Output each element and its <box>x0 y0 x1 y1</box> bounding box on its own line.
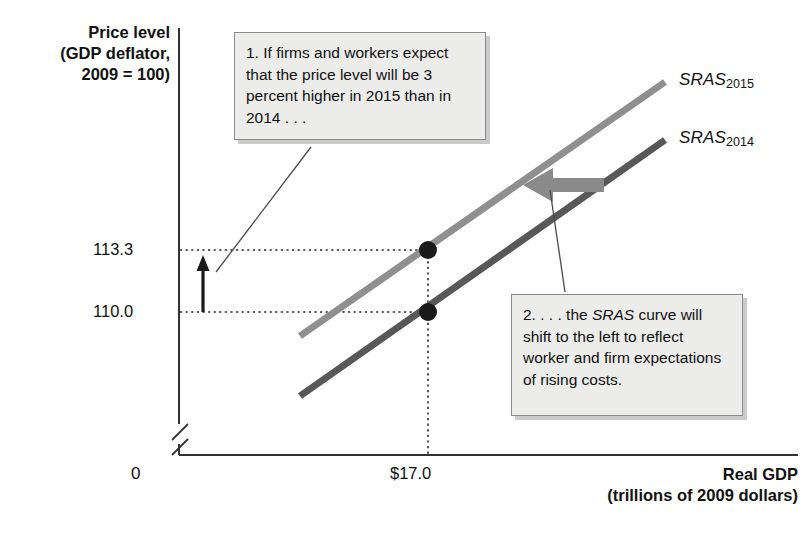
curve-label-sras-2014: SRAS2014 <box>679 128 754 149</box>
axis-break-slash-upper <box>172 424 188 440</box>
x-tick-label-17: $17.0 <box>390 464 431 483</box>
price-rise-arrow-icon <box>197 255 210 312</box>
curve-label-name-2015: SRAS <box>679 70 726 89</box>
callout-step-2-italic-term: SRAS <box>592 306 634 323</box>
y-tick-label-113-3: 113.3 <box>93 240 133 259</box>
curve-label-subscript-2014: 2014 <box>726 135 754 149</box>
callout-step-2: 2. . . . the SRAS curve will shift to th… <box>511 294 743 416</box>
leader-line-callout-2 <box>550 190 565 292</box>
callout-step-1: 1. If firms and workers expect that the … <box>234 32 486 140</box>
curve-label-subscript-2015: 2015 <box>726 77 754 91</box>
equilibrium-point-2015 <box>419 241 437 259</box>
x-axis-title: Real GDP (trillions of 2009 dollars) <box>520 464 798 506</box>
y-axis-title: Price level (GDP deflator, 2009 = 100) <box>0 22 170 85</box>
sras-shift-figure: Price level (GDP deflator, 2009 = 100) R… <box>0 0 804 539</box>
y-tick-label-110-0: 110.0 <box>93 302 133 321</box>
equilibrium-point-2014 <box>419 303 437 321</box>
callout-step-2-text-before: 2. . . . the <box>523 306 592 323</box>
callout-step-1-text: 1. If firms and workers expect that the … <box>246 44 451 126</box>
curve-label-name-2014: SRAS <box>679 128 726 147</box>
origin-label: 0 <box>131 464 140 484</box>
leader-line-callout-1 <box>216 147 311 272</box>
curve-label-sras-2015: SRAS2015 <box>679 70 754 91</box>
